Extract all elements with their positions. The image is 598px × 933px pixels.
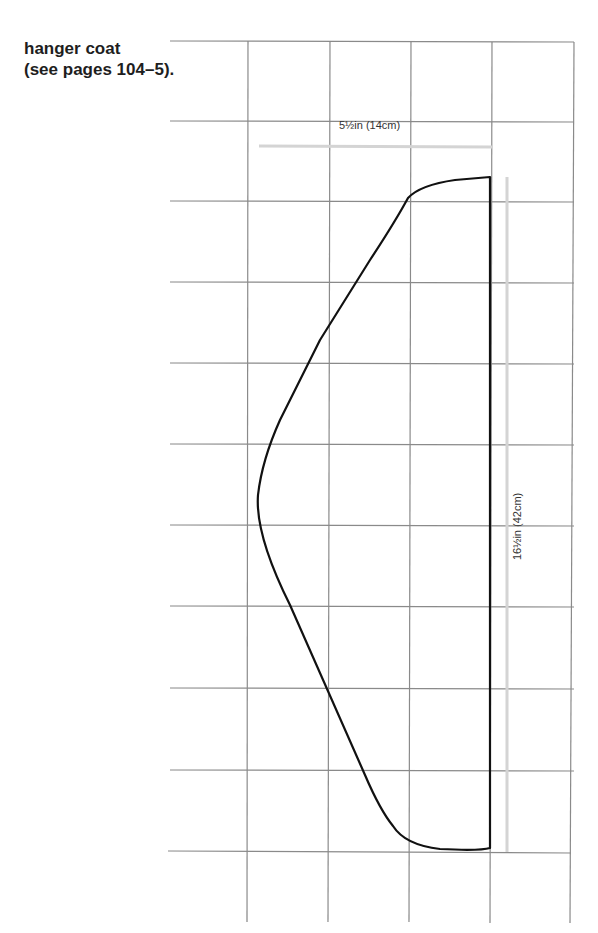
- pattern-diagram: 5½in (14cm) 16½in (42cm): [0, 0, 598, 933]
- width-dimension-label: 5½in (14cm): [339, 119, 400, 131]
- pattern-outline: [258, 177, 490, 850]
- height-dimension-label: 16½in (42cm): [511, 493, 523, 560]
- dimension-lines: [259, 146, 507, 852]
